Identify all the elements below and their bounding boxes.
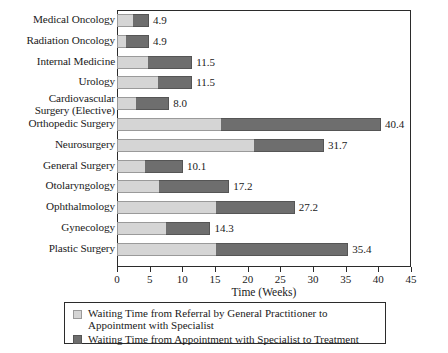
x-axis-tick-mark [280,267,281,272]
chart-legend: Waiting Time from Referral by General Pr… [64,302,386,344]
bar-segment-treatment-wait [166,222,210,235]
bar-segment-treatment-wait [145,160,183,173]
x-axis-tick-label: 5 [147,273,153,285]
bar-value-label: 10.1 [187,160,206,173]
bar-segment-treatment-wait [158,76,192,89]
bar-value-label: 31.7 [328,139,347,152]
bar-row: Gynecology14.3 [0,218,448,239]
legend-swatch-icon-series2 [73,335,82,344]
bar-row: Urology11.5 [0,72,448,93]
bar-segment-treatment-wait [159,180,230,193]
bar-segment-referral-wait [117,222,166,235]
x-axis-tick-mark [117,267,118,272]
bar-segment-referral-wait [117,243,216,256]
bar-segment-referral-wait [117,97,136,110]
x-axis-tick-label: 10 [177,273,188,285]
category-label: Neurosurgery [0,139,115,151]
bar-row: Ophthalmology27.2 [0,197,448,218]
bar-value-label: 8.0 [173,97,187,110]
bar-segment-referral-wait [117,160,145,173]
x-axis-tick-mark [150,267,151,272]
stacked-bar [117,201,295,214]
x-axis-tick-mark [313,267,314,272]
bar-value-label: 11.5 [196,76,215,89]
bar-segment-treatment-wait [136,97,169,110]
category-label: Urology [0,76,115,88]
x-axis-tick-mark [215,267,216,272]
bar-row: Neurosurgery31.7 [0,135,448,156]
x-axis-tick-label: 45 [406,273,417,285]
x-axis-tick-label: 30 [308,273,319,285]
category-label: Internal Medicine [0,56,115,68]
stacked-bar [117,180,229,193]
bar-value-label: 4.9 [153,14,167,27]
bar-value-label: 14.3 [214,222,233,235]
bar-segment-referral-wait [117,118,221,131]
bar-row: General Surgery10.1 [0,156,448,177]
bar-value-label: 11.5 [196,56,215,69]
x-axis-tick-label: 0 [114,273,120,285]
category-label: General Surgery [0,160,115,172]
bar-row: Internal Medicine11.5 [0,52,448,73]
stacked-bar [117,139,324,152]
bar-segment-referral-wait [117,35,126,48]
x-axis-tick-mark [411,267,412,272]
bar-segment-referral-wait [117,14,133,27]
bar-row: Otolaryngology17.2 [0,176,448,197]
bar-row: Radiation Oncology4.9 [0,31,448,52]
category-label: Gynecology [0,222,115,234]
bar-segment-referral-wait [117,76,158,89]
x-axis-tick-label: 40 [373,273,384,285]
category-label: Plastic Surgery [0,243,115,255]
stacked-bar [117,97,169,110]
x-axis-tick-mark [182,267,183,272]
bar-segment-treatment-wait [216,243,348,256]
bar-value-label: 35.4 [352,243,371,256]
x-axis-title: Time (Weeks) [117,286,411,298]
legend-swatch-icon-series1 [73,310,82,319]
bar-row: Orthopedic Surgery40.4 [0,114,448,135]
category-label: Medical Oncology [0,14,115,26]
x-axis-tick-mark [346,267,347,272]
bar-segment-treatment-wait [221,118,381,131]
x-axis-tick-mark [378,267,379,272]
bar-segment-treatment-wait [254,139,325,152]
bar-segment-referral-wait [117,201,216,214]
stacked-bar [117,118,381,131]
bar-value-label: 27.2 [299,201,318,214]
category-label: Cardiovascular Surgery (Elective) [0,93,115,116]
legend-item-appointment-to-treatment: Waiting Time from Appointment with Speci… [73,333,385,345]
stacked-bar [117,222,210,235]
x-axis-tick-label: 35 [340,273,351,285]
x-axis-tick-label: 25 [275,273,286,285]
bar-segment-referral-wait [117,180,159,193]
x-axis-tick-mark [248,267,249,272]
stacked-bar [117,160,183,173]
bar-segment-referral-wait [117,56,148,69]
stacked-bar [117,56,192,69]
x-axis-tick-label: 15 [210,273,221,285]
legend-label-series1: Waiting Time from Referral by General Pr… [88,307,380,332]
bar-segment-referral-wait [117,139,254,152]
bar-value-label: 40.4 [385,118,404,131]
stacked-bar [117,76,192,89]
waiting-time-bar-chart: Medical Oncology4.9Radiation Oncology4.9… [0,0,448,353]
x-axis-tick-label: 20 [242,273,253,285]
bar-segment-treatment-wait [216,201,295,214]
legend-item-referral-to-appointment: Waiting Time from Referral by General Pr… [73,307,385,332]
bar-row: Plastic Surgery35.4 [0,239,448,260]
bar-row: Medical Oncology4.9 [0,10,448,31]
stacked-bar [117,243,348,256]
category-label: Ophthalmology [0,201,115,213]
bar-rows-container: Medical Oncology4.9Radiation Oncology4.9… [0,10,448,260]
legend-label-series2: Waiting Time from Appointment with Speci… [88,333,359,345]
bar-segment-treatment-wait [148,56,192,69]
stacked-bar [117,14,149,27]
bar-value-label: 17.2 [233,180,252,193]
stacked-bar [117,35,149,48]
category-label: Otolaryngology [0,180,115,192]
category-label: Radiation Oncology [0,35,115,47]
category-label: Orthopedic Surgery [0,118,115,130]
bar-value-label: 4.9 [153,35,167,48]
bar-segment-treatment-wait [126,35,149,48]
